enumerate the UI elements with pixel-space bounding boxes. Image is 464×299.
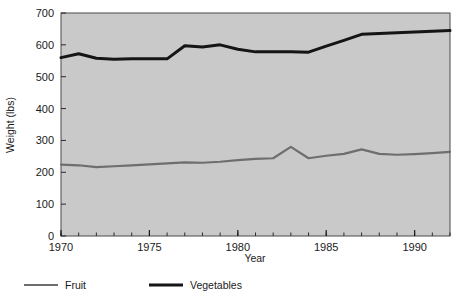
line-chart: 0100200300400500600700 19701975198019851…	[0, 0, 464, 299]
chart-legend: FruitVegetables	[24, 279, 242, 291]
y-tick-label: 400	[36, 103, 54, 115]
chart-figure: 0100200300400500600700 19701975198019851…	[0, 0, 464, 299]
y-axis-title: Weight (lbs)	[4, 97, 16, 153]
y-tick-label: 500	[36, 71, 54, 83]
y-tick-label: 700	[36, 7, 54, 19]
x-axis-tick-labels: 19701975198019851990	[49, 241, 427, 253]
x-tick-label: 1990	[402, 241, 426, 253]
x-axis-title: Year	[244, 252, 266, 264]
x-tick-label: 1975	[137, 241, 161, 253]
legend-label-vegetables: Vegetables	[190, 279, 242, 291]
y-tick-label: 600	[36, 39, 54, 51]
x-tick-label: 1970	[49, 241, 73, 253]
x-tick-label: 1985	[314, 241, 338, 253]
plot-background	[61, 13, 450, 236]
y-tick-label: 300	[36, 134, 54, 146]
y-axis-tick-labels: 0100200300400500600700	[36, 7, 54, 242]
y-tick-label: 100	[36, 198, 54, 210]
legend-label-fruit: Fruit	[65, 279, 86, 291]
y-tick-label: 200	[36, 166, 54, 178]
